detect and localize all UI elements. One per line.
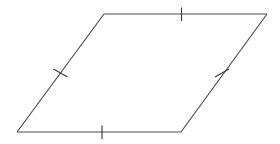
figure-background	[0, 0, 280, 144]
parallelogram-svg	[0, 0, 280, 144]
geometry-figure-canvas: A parallelogram with tick marks indicati…	[0, 0, 280, 144]
